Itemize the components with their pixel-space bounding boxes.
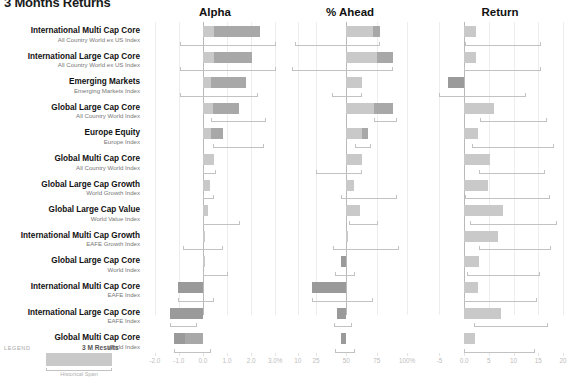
panel-row[interactable] [288,252,412,278]
alpha-bar-light-segment[interactable] [203,128,211,139]
return-bar[interactable] [464,154,490,165]
panel-row[interactable] [432,99,568,125]
panel-row[interactable] [288,48,412,74]
panel-row[interactable] [288,73,412,99]
panel-row[interactable] [432,176,568,202]
ahead-bar-dark-segment[interactable] [377,52,393,63]
alpha-bar-dark-segment[interactable] [211,77,246,88]
panel-row[interactable] [150,278,280,304]
return-bar[interactable] [464,231,498,242]
ahead-bar[interactable] [341,256,346,267]
row-label-strategy: International Multi Cap Growth [21,231,140,240]
alpha-bar-light-segment[interactable] [203,154,214,165]
alpha-bar-dark-segment[interactable] [214,52,253,63]
ahead-bar-light-segment[interactable] [346,52,376,63]
panel-row[interactable] [288,99,412,125]
return-bar[interactable] [464,128,478,139]
panel-row[interactable] [432,329,568,355]
return-bar[interactable] [464,103,494,114]
panel-row[interactable] [432,201,568,227]
panel-row[interactable] [432,252,568,278]
return-bar[interactable] [464,52,475,63]
ahead-bar-light-segment[interactable] [346,205,359,216]
return-bar[interactable] [464,308,501,319]
row-label-strategy: International Large Cap Core [28,308,140,317]
return-bar[interactable] [464,26,476,37]
panel-row[interactable] [150,73,280,99]
panel-row[interactable] [288,22,412,48]
alpha-bar-light-segment[interactable] [203,77,211,88]
panel-row[interactable] [150,304,280,330]
panel-row[interactable] [150,201,280,227]
return-bar[interactable] [448,77,464,88]
row-label-benchmark: World Index [108,266,140,274]
panel-row[interactable] [150,99,280,125]
alpha-bar-dark-segment[interactable] [211,128,223,139]
panel-row[interactable] [432,73,568,99]
ahead-bar[interactable] [341,333,346,344]
alpha-bar-light-segment[interactable] [203,231,205,242]
return-bar[interactable] [464,180,488,191]
ahead-bar-dark-segment[interactable] [373,26,380,37]
alpha-bar-light-segment[interactable] [203,256,205,267]
ahead-bar-light-segment[interactable] [346,103,374,114]
axis-tick-mark [346,353,347,356]
panel-row[interactable] [150,22,280,48]
ahead-bar-light-segment[interactable] [346,180,353,191]
return-bar[interactable] [464,282,478,293]
panel-row[interactable] [288,304,412,330]
alpha-bar-light-segment[interactable] [203,103,213,114]
ahead-bar-dark-segment[interactable] [374,103,392,114]
alpha-bar-dark-segment[interactable] [214,26,260,37]
alpha-bar-light-segment[interactable] [203,180,210,191]
ahead-bar-light-segment[interactable] [346,77,362,88]
row-label: International Multi Cap GrowthEAFE Growt… [0,227,146,253]
alpha-bar-light-segment[interactable] [203,26,214,37]
axis-tick-label: -5 [437,357,443,364]
row-label: Global Multi Cap CoreAll Country World I… [0,150,146,176]
panel-row[interactable] [288,278,412,304]
historical-span-whisker [341,195,397,199]
ahead-bar-light-segment[interactable] [346,231,348,242]
alpha-bar-light-segment[interactable] [203,205,208,216]
panel-row[interactable] [288,201,412,227]
panel-row[interactable] [150,329,280,355]
alpha-bar-dark-segment[interactable] [213,103,239,114]
panel-row[interactable] [432,278,568,304]
axis-tick-label: 10 [294,357,301,364]
panel-row[interactable] [432,227,568,253]
ahead-bar-light-segment[interactable] [346,26,373,37]
alpha-bar-light-segment[interactable] [203,52,214,63]
panel-row[interactable] [432,304,568,330]
alpha-bar[interactable] [170,308,203,319]
panel-row[interactable] [288,124,412,150]
panel-row[interactable] [432,124,568,150]
return-bar[interactable] [464,256,479,267]
axis-tick-mark [538,353,539,356]
ahead-bar-light-segment[interactable] [346,128,362,139]
alpha-bar[interactable] [178,282,203,293]
panel-row[interactable] [150,227,280,253]
panel-row[interactable] [288,329,412,355]
panel-row[interactable] [150,48,280,74]
ahead-bar-dark-segment[interactable] [362,128,368,139]
panel-row[interactable] [150,124,280,150]
historical-span-whisker [203,195,214,199]
ahead-bar[interactable] [337,308,347,319]
ahead-bar[interactable] [312,282,346,293]
ahead-bar-light-segment[interactable] [346,154,362,165]
row-label-column: International Multi Cap CoreAll Country … [0,22,146,355]
panel-row[interactable] [432,48,568,74]
axis-tick-label: 5 [487,357,491,364]
panel-row[interactable] [288,176,412,202]
panel-row[interactable] [432,22,568,48]
panel-row[interactable] [432,150,568,176]
panel-row[interactable] [150,176,280,202]
panel-row[interactable] [150,150,280,176]
return-bar[interactable] [464,333,475,344]
alpha-bar-segment[interactable] [185,333,203,344]
panel-row[interactable] [150,252,280,278]
panel-row[interactable] [288,227,412,253]
return-bar[interactable] [464,205,503,216]
panel-row[interactable] [288,150,412,176]
